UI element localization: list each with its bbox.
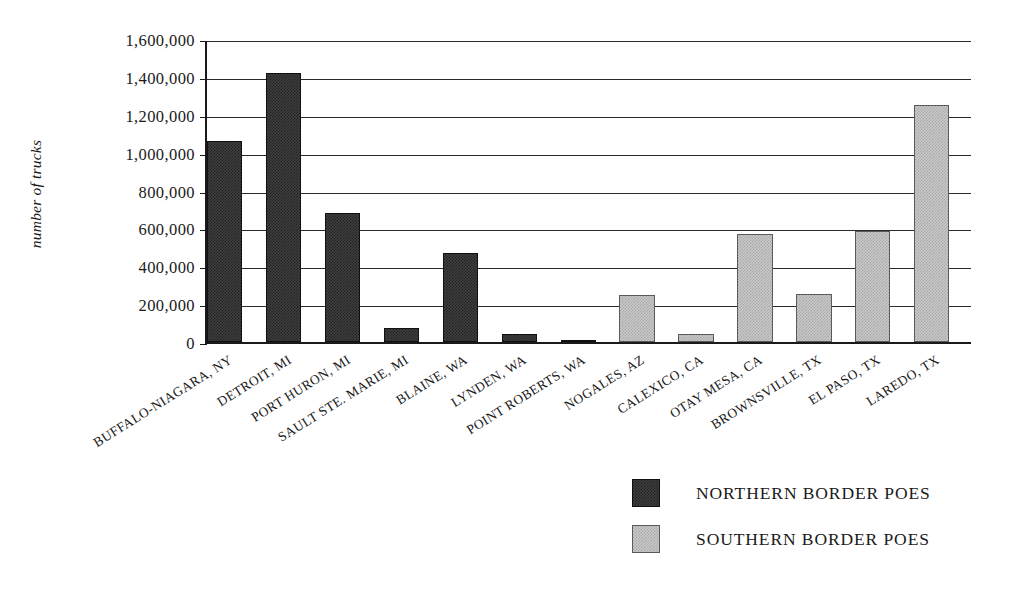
- y-axis-tick: [200, 268, 207, 269]
- y-axis-tick-label: 600,000: [139, 220, 195, 240]
- legend-swatch: [632, 479, 660, 507]
- bar[interactable]: [914, 105, 949, 342]
- legend: NORTHERN BORDER POESSOUTHERN BORDER POES: [632, 470, 931, 562]
- y-axis-tick: [200, 79, 207, 80]
- y-axis-tick-label: 1,600,000: [125, 31, 195, 51]
- y-axis-tick: [200, 230, 207, 231]
- legend-label: SOUTHERN BORDER POES: [696, 529, 930, 550]
- y-axis-tick: [200, 193, 207, 194]
- truck-crossings-bar-chart: number of trucks 0200,000400,000600,0008…: [0, 0, 1020, 592]
- y-axis-tick: [200, 344, 207, 345]
- y-axis-tick: [200, 306, 207, 307]
- legend-item[interactable]: NORTHERN BORDER POES: [632, 470, 931, 516]
- y-axis-tick-label: 400,000: [139, 258, 195, 278]
- legend-item[interactable]: SOUTHERN BORDER POES: [632, 516, 931, 562]
- y-axis-tick-label: 200,000: [139, 296, 195, 316]
- y-axis-tick-label: 800,000: [139, 182, 195, 202]
- y-axis-tick: [200, 155, 207, 156]
- legend-swatch: [632, 525, 660, 553]
- bar[interactable]: [207, 141, 242, 342]
- y-axis-tick-label: 1,200,000: [125, 106, 195, 126]
- bar[interactable]: [266, 73, 301, 342]
- y-axis-tick-label: 1,400,000: [125, 68, 195, 88]
- legend-label: NORTHERN BORDER POES: [696, 483, 931, 504]
- y-axis-tick: [200, 117, 207, 118]
- y-axis-title: number of trucks: [27, 114, 45, 274]
- y-axis-tick: [200, 41, 207, 42]
- y-axis-tick-label: 1,000,000: [125, 144, 195, 164]
- y-axis-tick-label: 0: [186, 334, 195, 354]
